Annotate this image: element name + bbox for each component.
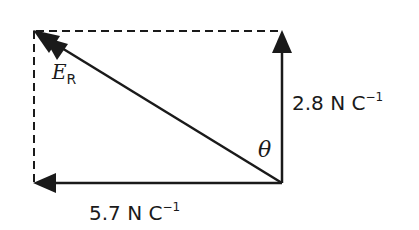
resultant-subscript: R: [67, 71, 77, 87]
vertical-exponent: −1: [365, 90, 383, 104]
vertical-vector-label: 2.8 N C−1: [292, 90, 383, 115]
horizontal-arrowhead: [33, 173, 56, 193]
angle-label: θ: [258, 137, 271, 162]
horizontal-unit: N C: [127, 201, 162, 225]
vertical-unit: N C: [330, 91, 365, 115]
horizontal-exponent: −1: [162, 200, 180, 214]
horizontal-value: 5.7: [89, 201, 121, 225]
resultant-vector: [52, 42, 282, 183]
vertical-value: 2.8: [292, 91, 324, 115]
resultant-symbol: E: [52, 60, 67, 84]
resultant-label: ER: [52, 60, 76, 87]
horizontal-vector-label: 5.7 N C−1: [89, 200, 180, 225]
vector-diagram: [0, 0, 419, 230]
vertical-arrowhead: [272, 30, 292, 53]
